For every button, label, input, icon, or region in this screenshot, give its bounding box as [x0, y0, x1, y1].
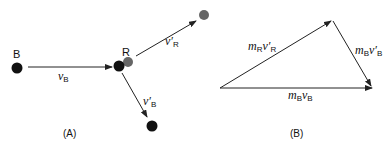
m-b-v-b-prime-label: mBv′B [355, 43, 382, 58]
panel-a: B vB R v′R v′B (A) [12, 10, 210, 139]
panel-b: mRv′R mBv′B mBvB (B) [220, 21, 382, 139]
m-r-v-r-prime-label: mRv′R [248, 39, 276, 54]
ball-b-at-collision [114, 61, 125, 72]
ball-b-initial [12, 63, 23, 74]
m-b-v-b-label: mBvB [288, 88, 313, 103]
ball-b-label: B [13, 48, 20, 60]
collision-diagram: B vB R v′R v′B (A) mRv′R mBv′B mBvB (B) [0, 0, 389, 147]
ball-r-at-collision [123, 57, 133, 67]
v-b-prime-label: v′B [143, 94, 156, 109]
caption-b: (B) [290, 128, 303, 139]
ball-b-final [147, 121, 158, 132]
ball-r-label: R [122, 46, 130, 58]
caption-a: (A) [63, 128, 76, 139]
ball-r-final [199, 10, 209, 20]
v-r-prime-label: v′R [165, 34, 179, 49]
v-b-label: vB [58, 69, 69, 84]
m-r-v-r-prime-arrow [220, 21, 331, 88]
